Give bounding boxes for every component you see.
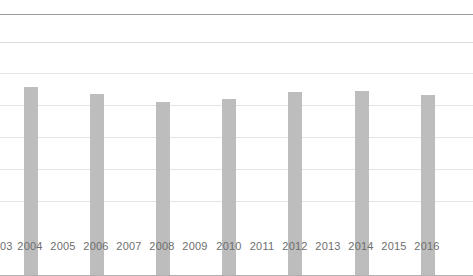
top-horizontal-rule xyxy=(0,14,473,15)
plot-area xyxy=(0,42,473,234)
x-tick-label-2016: 2016 xyxy=(406,239,448,253)
x-axis-labels: 03 2004 2005 2006 2007 2008 2009 2010 20… xyxy=(0,239,473,257)
